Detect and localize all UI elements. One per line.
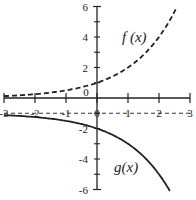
- f-label: f (x): [122, 29, 147, 46]
- svg-text:0: 0: [94, 107, 100, 119]
- svg-text:-2: -2: [30, 107, 39, 119]
- svg-text:-4: -4: [79, 153, 89, 165]
- svg-text:1: 1: [125, 107, 131, 119]
- svg-text:3: 3: [187, 107, 193, 119]
- svg-text:6: 6: [83, 1, 89, 13]
- function-graph: -3-2-100123-6-4-2246 f (x) g(x): [0, 0, 196, 200]
- svg-text:2: 2: [83, 62, 89, 74]
- svg-text:-3: -3: [0, 107, 9, 119]
- svg-text:-1: -1: [61, 107, 70, 119]
- svg-text:-6: -6: [79, 184, 89, 196]
- curves: [4, 9, 176, 191]
- svg-text:-2: -2: [79, 123, 88, 135]
- f-curve: [4, 9, 176, 96]
- svg-text:0: 0: [83, 86, 89, 98]
- svg-text:4: 4: [83, 31, 89, 43]
- svg-text:2: 2: [156, 107, 162, 119]
- g-label: g(x): [114, 159, 138, 176]
